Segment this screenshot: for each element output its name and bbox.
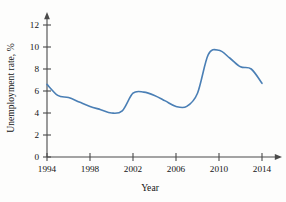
y-tick-label-4: 4 xyxy=(34,108,39,118)
x-axis xyxy=(47,154,282,160)
x-axis-arrowhead xyxy=(275,154,282,160)
x-axis-title: Year xyxy=(141,182,159,193)
x-tick-label-2014: 2014 xyxy=(253,164,272,174)
x-tick-labels: 1994 1998 2002 2006 2010 2014 xyxy=(38,164,272,174)
x-tick-label-1994: 1994 xyxy=(38,164,57,174)
y-tick-label-6: 6 xyxy=(34,86,39,96)
y-tick-label-0: 0 xyxy=(34,152,39,162)
y-tick-label-10: 10 xyxy=(30,42,40,52)
x-tick-label-2006: 2006 xyxy=(167,164,186,174)
x-tick-label-2010: 2010 xyxy=(210,164,229,174)
chart-canvas: 0 2 4 6 8 10 12 1994 1998 2002 2006 2010… xyxy=(0,0,286,202)
x-tick-label-2002: 2002 xyxy=(124,164,143,174)
x-tick-label-1998: 1998 xyxy=(81,164,100,174)
y-tick-labels: 0 2 4 6 8 10 12 xyxy=(30,20,40,162)
y-tick-label-8: 8 xyxy=(34,64,39,74)
y-axis-arrowhead xyxy=(44,12,50,19)
y-tick-label-2: 2 xyxy=(34,130,39,140)
y-tick-label-12: 12 xyxy=(30,20,40,30)
unemployment-rate-line-chart: 0 2 4 6 8 10 12 1994 1998 2002 2006 2010… xyxy=(0,0,286,202)
data-series-unemployment-rate xyxy=(47,50,262,114)
y-axis-title: Unemployment rate, % xyxy=(5,43,16,132)
